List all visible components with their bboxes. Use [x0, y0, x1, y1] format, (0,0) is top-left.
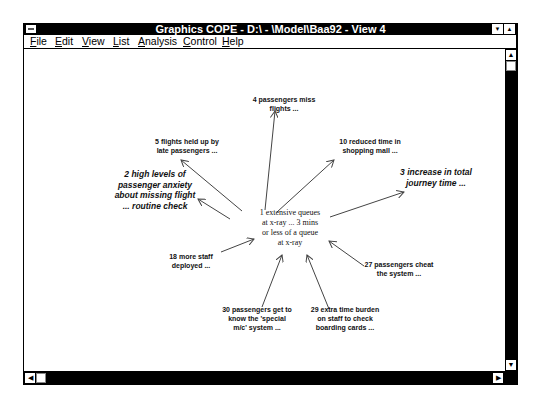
node-line: m/c' system ...: [212, 323, 302, 332]
menu-control-label: ontrol: [191, 35, 217, 47]
menu-view-label: iew: [89, 35, 105, 47]
menu-bar: File Edit View List Analysis Control Hel…: [24, 35, 516, 49]
menu-analysis-accel: A: [138, 35, 145, 47]
menu-list-label: ist: [119, 35, 130, 47]
node-line: shopping mall ...: [330, 146, 410, 155]
node-30[interactable]: 30 passengers get to know the 'special m…: [212, 305, 302, 332]
node-line: 5 flights held up by: [142, 137, 232, 146]
horizontal-scrollbar[interactable]: ◀ ▶: [24, 371, 505, 384]
node-line: passenger anxiety: [100, 180, 210, 191]
menu-analysis-label: nalysis: [145, 35, 177, 47]
menu-edit-accel: E: [55, 35, 62, 47]
node-18[interactable]: 18 more staff deployed ...: [156, 252, 226, 270]
scroll-down-button[interactable]: ▼: [506, 360, 516, 370]
node-line: boarding cards ...: [300, 323, 390, 332]
node-line: at x-ray ... 3 mins: [235, 218, 345, 228]
node-line: 18 more staff: [156, 252, 226, 261]
menu-help[interactable]: Help: [222, 35, 244, 48]
menu-control-accel: C: [183, 35, 191, 47]
node-line: 30 passengers get to: [212, 305, 302, 314]
node-line: 4 passengers miss: [244, 95, 324, 104]
diagram-canvas[interactable]: 1 extensive queues at x-ray ... 3 mins o…: [24, 49, 505, 371]
menu-file[interactable]: File: [30, 35, 47, 48]
menu-help-label: elp: [230, 35, 244, 47]
node-line: journey time ...: [386, 178, 486, 189]
node-line: deployed ...: [156, 261, 226, 270]
node-line: the system ...: [354, 269, 444, 278]
menu-help-accel: H: [222, 35, 230, 47]
node-4[interactable]: 4 passengers miss flights ...: [244, 95, 324, 113]
vertical-scroll-thumb[interactable]: [506, 61, 516, 71]
horizontal-scroll-thumb[interactable]: [36, 373, 46, 383]
node-line: on staff to check: [300, 314, 390, 323]
arrow-from-29: [307, 255, 329, 309]
node-line: late passengers ...: [142, 146, 232, 155]
node-line: at x-ray: [235, 238, 345, 248]
node-29[interactable]: 29 extra time burden on staff to check b…: [300, 305, 390, 332]
menu-analysis[interactable]: Analysis: [138, 35, 177, 48]
menu-edit-label: dit: [62, 35, 73, 47]
menu-view-accel: V: [82, 35, 89, 47]
menu-control[interactable]: Control: [183, 35, 217, 48]
node-line: 29 extra time burden: [300, 305, 390, 314]
node-10[interactable]: 10 reduced time in shopping mall ...: [330, 137, 410, 155]
title-bar[interactable]: Graphics COPE - D:\ - \Model\Baa92 - Vie…: [23, 23, 518, 35]
cope-window: Graphics COPE - D:\ - \Model\Baa92 - Vie…: [23, 23, 518, 385]
node-1-central[interactable]: 1 extensive queues at x-ray ... 3 mins o…: [235, 208, 345, 248]
node-line: know the 'special: [212, 314, 302, 323]
node-line: or less of a queue: [235, 228, 345, 238]
maximize-button[interactable]: ▲: [504, 24, 515, 34]
window-title: Graphics COPE - D:\ - \Model\Baa92 - Vie…: [23, 23, 518, 35]
scroll-left-button[interactable]: ◀: [25, 373, 35, 383]
node-line: 2 high levels of: [100, 169, 210, 180]
menu-view[interactable]: View: [82, 35, 105, 48]
menu-edit[interactable]: Edit: [55, 35, 73, 48]
menu-file-label: ile: [36, 35, 47, 47]
node-line: flights ...: [244, 104, 324, 113]
arrow-to-4: [265, 111, 275, 210]
scroll-right-button[interactable]: ▶: [493, 373, 503, 383]
node-line: 10 reduced time in: [330, 137, 410, 146]
menu-list[interactable]: List: [113, 35, 129, 48]
node-line: 3 increase in total: [386, 167, 486, 178]
arrow-to-10: [277, 160, 334, 212]
node-line: 27 passengers cheat: [354, 260, 444, 269]
vertical-scrollbar[interactable]: ▲ ▼: [505, 49, 517, 371]
node-line: 1 extensive queues: [235, 208, 345, 218]
node-27[interactable]: 27 passengers cheat the system ...: [354, 260, 444, 278]
minimize-button[interactable]: ▼: [492, 24, 503, 34]
node-line: ... routine check: [100, 201, 210, 212]
arrow-from-30: [262, 255, 282, 307]
scroll-up-button[interactable]: ▲: [506, 50, 516, 60]
node-2[interactable]: 2 high levels of passenger anxiety about…: [100, 169, 210, 211]
node-line: about missing flight: [100, 190, 210, 201]
node-5[interactable]: 5 flights held up by late passengers ...: [142, 137, 232, 155]
node-3[interactable]: 3 increase in total journey time ...: [386, 167, 486, 188]
